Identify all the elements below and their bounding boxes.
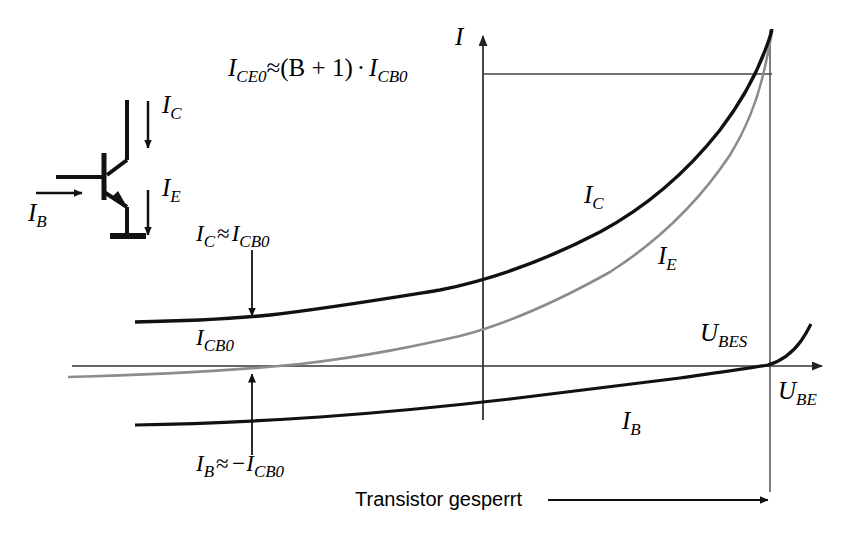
ibapx-rhs: −I [231,451,254,476]
icb0-sub: CB0 [204,336,234,355]
transistor-ic-label: IC [162,92,182,122]
diagram-svg [0,0,857,549]
icapx-rhs-sub: CB0 [239,232,269,251]
y-axis-label: I [455,24,463,49]
ibapx-rhs-sub: CB0 [254,462,284,481]
ice0-rhs: (B + 1) [280,54,352,81]
icb0-level-label: ICB0 [196,326,234,354]
ice0-equation: ICE0≈(B + 1)·ICB0 [228,55,408,85]
curve-label-ic: IC [584,182,604,212]
icb0-base: I [196,325,204,350]
curve-ic-sub: C [592,194,603,213]
transistor-ie-label: IE [162,175,181,205]
ube-label: UBE [778,378,817,408]
curve-label-ie: IE [658,243,677,273]
ice0-lhs-sub: CE0 [236,67,266,86]
transistor-symbol [56,100,146,236]
ib-approx-equation: IB≈−ICB0 [196,452,284,480]
ibapx-lhs-sub: B [204,462,214,481]
icapx-approx: ≈ [215,221,232,246]
region-annotation-label: Transistor gesperrt [355,489,522,509]
diagram-canvas: IC IE IB ICE0≈(B + 1)·ICB0 I IC≈ICB0 ICB… [0,0,857,549]
curve-label-ib: IB [622,408,641,438]
ice0-approx: ≈ [267,54,281,81]
ubes-sub: BES [718,332,747,351]
ube-base: U [778,377,796,404]
ib-sub: B [36,212,46,231]
icapx-lhs-sub: C [204,232,215,251]
ubes-label: UBES [700,320,747,350]
curve-ie-sub: E [666,255,676,274]
ice0-dot: · [353,54,369,81]
ube-sub: BE [796,390,817,409]
region-annotation-text: Transistor gesperrt [355,488,522,510]
ice0-factor-sub: CB0 [377,67,407,86]
transistor-ib-label: IB [28,200,47,230]
y-axis-text: I [455,23,463,50]
curve-ib-sub: B [630,420,640,439]
ibapx-lhs: I [196,451,204,476]
icapx-lhs: I [196,221,204,246]
ubes-base: U [700,319,718,346]
ie-sub: E [170,187,180,206]
ic-approx-equation: IC≈ICB0 [196,222,270,250]
ic-sub: C [170,104,181,123]
ibapx-approx: ≈ [214,451,231,476]
